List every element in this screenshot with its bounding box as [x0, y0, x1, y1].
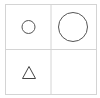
cell-top-right: [59, 13, 88, 42]
cell-bottom-left: [23, 67, 36, 79]
triangle-icon: [23, 67, 36, 79]
cell-top-left: [22, 21, 35, 34]
small-circle-icon: [22, 21, 35, 34]
large-circle-icon: [59, 13, 88, 42]
shape-grid: [0, 0, 100, 98]
grid-lines: [6, 5, 97, 95]
